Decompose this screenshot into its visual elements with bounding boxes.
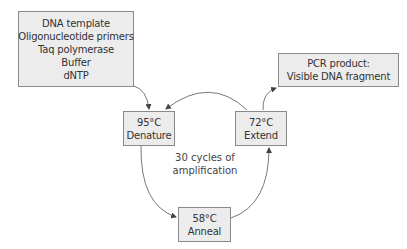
arrow-extend-to-product [263,88,276,110]
ingredient-taq: Taq polymerase [38,43,114,56]
cycle-count-label: 30 cycles of amplification [155,151,255,177]
extend-label: Extend [244,129,278,142]
ingredient-dna-template: DNA template [42,17,110,30]
ingredient-dntp: dNTP [63,69,88,82]
anneal-step-box: 58°C Anneal [178,207,231,242]
product-title: PCR product: [307,57,370,70]
cycle-label-line-1: 30 cycles of [155,151,255,164]
ingredients-box: DNA template Oligonucleotide primers Taq… [18,11,134,87]
ingredient-buffer: Buffer [61,56,90,69]
extend-step-box: 72°C Extend [235,111,287,146]
cycle-label-line-2: amplification [155,164,255,177]
denature-temperature: 95°C [137,116,161,129]
ingredient-primers: Oligonucleotide primers [18,30,133,43]
product-description: Visible DNA fragment [287,70,390,83]
extend-temperature: 72°C [249,116,273,129]
arrow-extend-to-denature [166,92,247,110]
pcr-product-box: PCR product: Visible DNA fragment [278,53,399,87]
denature-label: Denature [126,129,171,142]
anneal-label: Anneal [188,225,221,238]
anneal-temperature: 58°C [193,212,217,225]
arrow-ingredients-to-denature [134,86,149,109]
denature-step-box: 95°C Denature [123,111,175,146]
